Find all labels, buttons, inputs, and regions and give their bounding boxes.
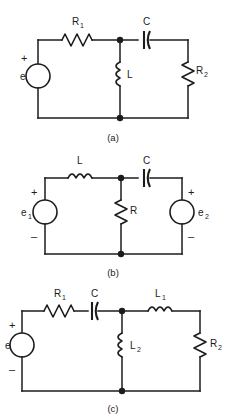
inductor-L-symbol xyxy=(116,62,120,86)
voltage-source-e1-symbol xyxy=(33,200,57,224)
polarity-plus-e1: + xyxy=(31,186,37,198)
label-source-e-c: e xyxy=(5,340,11,351)
node-dot-b-bottom xyxy=(118,251,124,257)
label-source-e1: e xyxy=(21,207,27,218)
circuit-diagram-c: R 1 C L 1 L 2 R 2 e + – (c) xyxy=(0,283,237,419)
resistor-R2-symbol xyxy=(182,62,194,86)
label-L-b: L xyxy=(77,155,83,166)
polarity-plus-e2: + xyxy=(188,186,194,198)
label-L: L xyxy=(127,69,133,80)
node-dot-a-top xyxy=(117,37,123,43)
node-dot-b-top xyxy=(118,175,124,181)
polarity-minus-e2: – xyxy=(188,230,195,242)
polarity-plus-a: + xyxy=(21,52,27,64)
inductor-L2-symbol xyxy=(118,333,122,357)
label-R2-c: R xyxy=(210,338,217,349)
label-source-e: e xyxy=(20,71,26,82)
label-C: C xyxy=(143,16,150,27)
label-L1: L xyxy=(155,288,161,299)
label-R-b: R xyxy=(130,205,137,216)
voltage-source-e-symbol xyxy=(26,64,50,88)
circuit-diagram-a: R 1 C L R 2 e + (a) xyxy=(0,0,237,148)
caption-b: (b) xyxy=(107,267,119,278)
caption-a: (a) xyxy=(107,132,119,143)
label-source-e1-sub: 1 xyxy=(28,213,32,220)
label-R1-sub-c: 1 xyxy=(62,294,66,301)
resistor-R1-symbol-c xyxy=(44,305,74,317)
label-source-e2-sub: 2 xyxy=(205,213,209,220)
label-L2-sub: 2 xyxy=(137,346,141,353)
polarity-plus-c: + xyxy=(9,319,15,331)
node-dot-c-top xyxy=(119,308,125,314)
circuit-diagram-b: L C R e 1 + – e 2 + – (b) xyxy=(0,148,237,283)
label-C-b: C xyxy=(143,155,150,166)
label-L1-sub: 1 xyxy=(162,294,166,301)
node-dot-a-bottom xyxy=(117,115,123,121)
label-C-c: C xyxy=(91,288,98,299)
caption-c: (c) xyxy=(107,403,118,414)
voltage-source-e-symbol-c xyxy=(10,333,34,357)
label-R1-sub: 1 xyxy=(80,22,84,29)
resistor-R1-symbol xyxy=(62,34,92,46)
circuit-figure-root: R 1 C L R 2 e + (a) xyxy=(0,0,237,419)
label-R2: R xyxy=(196,65,203,76)
node-dot-c-bottom xyxy=(119,388,125,394)
label-R1-c: R xyxy=(54,288,61,299)
label-R2-sub-c: 2 xyxy=(218,344,222,351)
resistor-R2-symbol-c xyxy=(194,333,206,357)
inductor-L-symbol-b xyxy=(68,174,92,178)
voltage-source-e2-symbol xyxy=(170,200,194,224)
inductor-L1-symbol xyxy=(148,307,172,311)
resistor-R-symbol-b xyxy=(115,200,127,224)
label-R1: R xyxy=(72,16,79,27)
label-R2-sub: 2 xyxy=(204,71,208,78)
label-source-e2: e xyxy=(198,207,204,218)
label-L2: L xyxy=(130,340,136,351)
polarity-minus-c: – xyxy=(9,363,16,375)
polarity-minus-e1: – xyxy=(31,230,38,242)
